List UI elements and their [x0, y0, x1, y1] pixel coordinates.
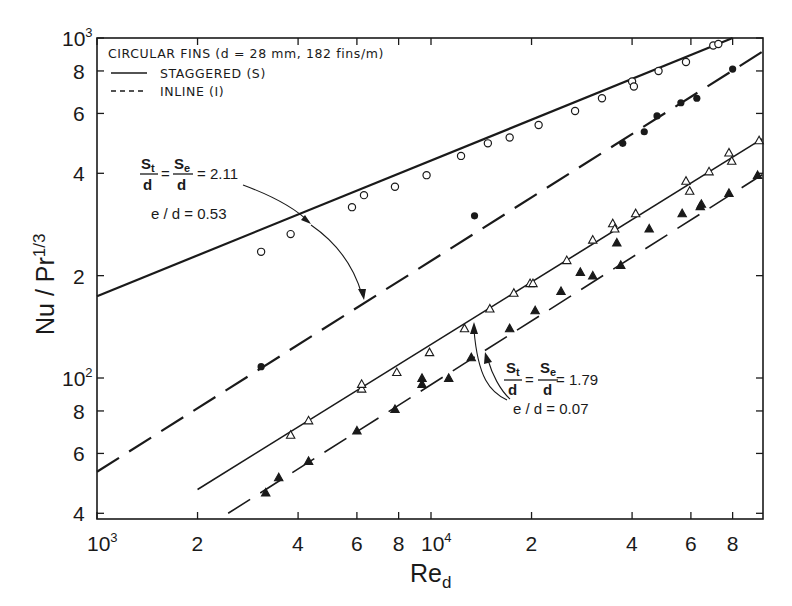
data-point-open-triangle	[563, 256, 571, 264]
annot-lower-eod: e / d = 0.07	[513, 400, 588, 417]
data-point-open-triangle	[357, 380, 365, 388]
data-point-filled-triangle	[645, 224, 653, 232]
data-point-open-triangle	[304, 416, 312, 424]
x-tick-label: 4	[292, 532, 304, 555]
arrow-upper-to-staggered	[243, 185, 309, 222]
x-tick-label: 104	[421, 530, 452, 555]
data-point-open-circle	[457, 152, 464, 159]
legend-entry-inline: INLINE (I)	[160, 84, 224, 99]
data-point-filled-triangle	[725, 189, 733, 197]
y-tick-label: 103	[62, 25, 93, 50]
arrowhead-icon	[358, 289, 366, 300]
annot-upper-den1: d	[143, 176, 152, 193]
x-axis-title: Red	[410, 559, 451, 592]
annot-lower-den2: d	[543, 381, 552, 398]
data-point-filled-circle	[258, 363, 265, 370]
fit-line	[198, 139, 763, 490]
data-point-open-circle	[391, 183, 398, 190]
annot-lower-st: St	[506, 359, 520, 378]
data-point-open-circle	[360, 192, 367, 199]
data-point-filled-circle	[677, 99, 684, 106]
series-2	[198, 136, 764, 489]
data-point-open-circle	[258, 248, 265, 255]
series-layer	[97, 38, 763, 513]
data-point-open-circle	[630, 83, 637, 90]
data-point-open-circle	[484, 140, 491, 147]
data-point-filled-circle	[619, 140, 626, 147]
x-tick-label: 8	[393, 532, 405, 555]
data-point-open-triangle	[286, 431, 294, 439]
x-tick-label: 6	[351, 532, 363, 555]
data-point-open-triangle	[685, 187, 693, 195]
y-tick-label: 4	[73, 502, 85, 525]
data-point-filled-circle	[729, 66, 736, 73]
annot-upper-st: St	[141, 155, 155, 174]
data-point-open-triangle	[631, 209, 639, 217]
annot-lower-se: Se	[540, 359, 556, 378]
annot-upper-value: = 2.11	[197, 165, 238, 182]
data-point-filled-circle	[693, 95, 700, 102]
data-point-open-triangle	[705, 167, 713, 175]
x-tick-label: 6	[685, 532, 697, 555]
annot-lower-den1: d	[508, 381, 517, 398]
data-point-filled-circle	[471, 212, 478, 219]
data-point-filled-triangle	[678, 209, 686, 217]
x-tick-label: 4	[626, 532, 638, 555]
annot-upper-se: Se	[174, 155, 190, 174]
x-tick-label: 103	[87, 530, 118, 555]
data-point-filled-circle	[653, 112, 660, 119]
data-point-filled-triangle	[576, 268, 584, 276]
x-tick-label: 2	[192, 532, 204, 555]
data-point-filled-triangle	[753, 171, 761, 179]
data-point-filled-triangle	[531, 306, 539, 314]
data-point-open-circle	[423, 172, 430, 179]
data-point-open-triangle	[682, 177, 690, 185]
data-point-filled-triangle	[613, 239, 621, 247]
data-point-open-triangle	[755, 136, 763, 144]
series-1	[97, 52, 762, 472]
y-tick-label: 6	[73, 442, 85, 465]
data-point-open-circle	[287, 230, 294, 237]
data-point-open-circle	[715, 40, 722, 47]
plot-frame	[97, 38, 763, 519]
annot-lower-eq1: =	[525, 371, 534, 388]
arrow-upper-to-inline	[311, 225, 362, 295]
data-point-filled-triangle	[589, 271, 597, 279]
data-point-open-triangle	[393, 368, 401, 376]
y-axis-title: Nu / Pr1/3	[30, 234, 59, 335]
x-tick-label: 8	[727, 532, 739, 555]
data-point-filled-triangle	[557, 287, 565, 295]
x-tick-label: 2	[526, 532, 538, 555]
y-tick-label: 8	[73, 400, 85, 423]
data-point-open-circle	[506, 134, 513, 141]
data-point-open-triangle	[589, 236, 597, 244]
y-tick-label: 6	[73, 102, 85, 125]
y-tick-label: 2	[73, 265, 85, 288]
data-point-open-circle	[348, 204, 355, 211]
arrowhead-icon	[470, 322, 478, 334]
data-point-open-triangle	[725, 148, 733, 156]
data-point-open-circle	[571, 107, 578, 114]
data-point-open-triangle	[425, 348, 433, 356]
y-tick-label: 4	[73, 162, 85, 185]
arrowhead-icon	[484, 352, 492, 364]
data-point-filled-triangle	[505, 324, 513, 332]
legend: CIRCULAR FINS (d = 28 mm, 182 fins/m) ST…	[108, 46, 384, 99]
annotation-upper: St d = Se d = 2.11 e / d = 0.53	[140, 155, 366, 300]
annot-lower-value: = 1.79	[556, 371, 598, 388]
data-point-filled-triangle	[445, 374, 453, 382]
data-point-open-circle	[535, 121, 542, 128]
y-tick-label: 8	[73, 60, 85, 83]
legend-title: CIRCULAR FINS (d = 28 mm, 182 fins/m)	[108, 46, 384, 61]
data-point-open-circle	[682, 58, 689, 65]
axis-ticks: 103246810424684681022468103	[62, 25, 763, 555]
data-point-filled-triangle	[275, 473, 283, 481]
data-point-open-circle	[655, 67, 662, 74]
data-point-open-triangle	[510, 289, 518, 297]
annotation-lower: St d = Se d = 1.79 e / d = 0.07	[470, 322, 598, 417]
heat-transfer-chart: 103246810424684681022468103 CIRCULAR FIN…	[0, 0, 792, 606]
annot-upper-den2: d	[177, 176, 186, 193]
annot-upper-eod: e / d = 0.53	[151, 205, 226, 222]
y-tick-label: 102	[62, 365, 93, 390]
data-point-open-circle	[598, 95, 605, 102]
